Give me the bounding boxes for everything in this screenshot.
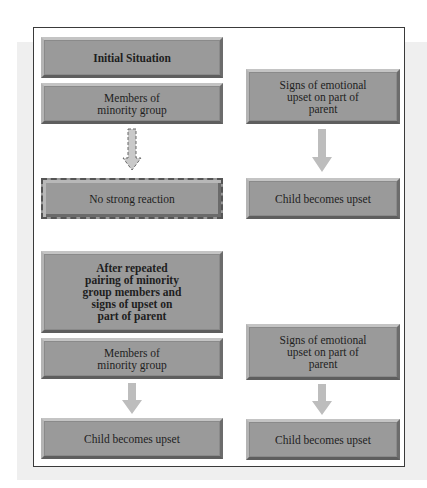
initial-left-stimulus-box: Members of minority group [41, 83, 223, 124]
after-right-response-label: Child becomes upset [275, 434, 371, 446]
after-right-stimulus-box: Signs of emotional upset on part of pare… [246, 324, 400, 380]
initial-situation-label: Initial Situation [93, 52, 171, 64]
after-left-stimulus-label: Members of minority group [97, 347, 166, 371]
initial-situation-header: Initial Situation [41, 37, 223, 78]
after-left-response-box: Child becomes upset [41, 418, 223, 459]
initial-left-stimulus-label: Members of minority group [97, 92, 166, 116]
initial-right-stimulus-box: Signs of emotional upset on part of pare… [246, 69, 400, 124]
initial-right-response-label: Child becomes upset [275, 193, 371, 205]
after-pairing-header: After repeated pairing of minority group… [41, 251, 223, 333]
initial-left-response-label: No strong reaction [89, 193, 175, 205]
initial-right-response-box: Child becomes upset [246, 178, 400, 219]
after-right-stimulus-label: Signs of emotional upset on part of pare… [280, 334, 367, 370]
dashed-arrow-down-icon [122, 128, 142, 172]
arrow-down-icon [312, 384, 332, 416]
after-right-response-box: Child becomes upset [246, 419, 400, 460]
after-left-stimulus-box: Members of minority group [41, 338, 223, 379]
after-left-response-label: Child becomes upset [84, 433, 180, 445]
arrow-down-icon [122, 383, 142, 415]
initial-right-stimulus-label: Signs of emotional upset on part of pare… [280, 79, 367, 115]
initial-left-response-box: No strong reaction [41, 178, 223, 219]
arrow-down-icon [312, 129, 332, 173]
after-pairing-label: After repeated pairing of minority group… [83, 262, 182, 322]
